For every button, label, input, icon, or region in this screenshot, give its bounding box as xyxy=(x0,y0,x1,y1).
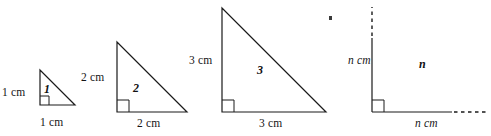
figure-canvas: 1 cm 1 cm 1 2 cm 2 cm 2 3 cm 3 cm 3 n cm… xyxy=(0,0,491,136)
triangle-3-vertical-label: 3 cm xyxy=(189,54,212,66)
triangle-n-right-angle-marker xyxy=(372,100,384,112)
triangle-1-vertical-label: 1 cm xyxy=(2,86,25,98)
triangle-3-outline xyxy=(222,8,326,112)
triangle-n-horizontal-label: n cm xyxy=(415,117,438,129)
triangle-2-right-angle-marker xyxy=(117,100,129,112)
triangle-3-group xyxy=(222,8,326,112)
triangle-1-index-label: 1 xyxy=(44,83,50,95)
triangle-2-outline xyxy=(117,42,187,112)
triangle-3-horizontal-label: 3 cm xyxy=(259,117,282,129)
triangle-1-right-angle-marker xyxy=(40,96,49,105)
triangle-2-index-label: 2 xyxy=(133,82,139,94)
triangle-sequence-drawing xyxy=(0,0,491,136)
triangle-2-group xyxy=(117,42,187,112)
triangle-2-vertical-label: 2 cm xyxy=(81,71,104,83)
triangle-n-vertical-label: n cm xyxy=(348,54,371,66)
triangle-3-index-label: 3 xyxy=(257,64,263,76)
triangle-1-horizontal-label: 1 cm xyxy=(40,116,63,128)
triangle-2-horizontal-label: 2 cm xyxy=(137,117,160,129)
triangle-n-index-label: n xyxy=(419,58,426,70)
triangle-n-group xyxy=(372,7,487,112)
stray-print-mark-icon xyxy=(329,16,332,20)
triangle-3-right-angle-marker xyxy=(222,100,234,112)
